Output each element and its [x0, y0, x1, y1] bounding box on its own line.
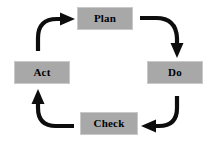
- arrow-plan-to-do-path: [140, 18, 177, 45]
- node-check[interactable]: Check: [80, 112, 138, 135]
- arrow-check-to-act: [32, 89, 75, 126]
- arrow-do-to-check-path: [153, 96, 177, 126]
- arrow-plan-to-do: [140, 18, 184, 58]
- arrow-act-to-plan-path: [38, 19, 63, 51]
- node-check-label: Check: [94, 118, 125, 129]
- arrow-do-to-check-head: [141, 120, 156, 133]
- arrow-plan-to-do-head: [171, 43, 184, 58]
- node-plan[interactable]: Plan: [77, 7, 133, 30]
- pdca-cycle-diagram: Plan Do Check Act: [0, 0, 216, 147]
- node-act-label: Act: [33, 67, 50, 78]
- node-do-label: Do: [168, 67, 182, 78]
- arrow-do-to-check: [141, 96, 177, 133]
- node-do[interactable]: Do: [147, 61, 203, 84]
- node-act[interactable]: Act: [14, 61, 70, 84]
- arrow-check-to-act-path: [38, 102, 74, 126]
- arrow-act-to-plan-head: [60, 13, 75, 26]
- node-plan-label: Plan: [94, 13, 116, 24]
- arrow-act-to-plan: [38, 13, 75, 52]
- arrow-check-to-act-head: [32, 89, 45, 104]
